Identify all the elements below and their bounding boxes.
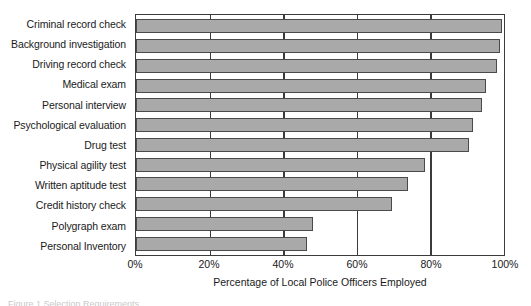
bar <box>136 197 392 211</box>
category-label: Personal Inventory <box>0 236 131 256</box>
category-label: Drug test <box>0 135 131 155</box>
x-axis-title: Percentage of Local Police Officers Empl… <box>135 276 505 288</box>
bar <box>136 59 497 73</box>
x-tick-label-100: 100% <box>492 258 519 270</box>
bar <box>136 158 425 172</box>
bar-row <box>136 214 504 234</box>
bar-series <box>136 15 504 255</box>
category-label: Polygraph exam <box>0 216 131 236</box>
x-tick-label-0: 0% <box>127 258 142 270</box>
bar-row <box>136 115 504 135</box>
bar-row <box>136 175 504 195</box>
category-axis-labels: Criminal record check Background investi… <box>0 14 131 256</box>
bar <box>136 217 313 231</box>
category-label: Background investigation <box>0 34 131 54</box>
bar <box>136 118 473 132</box>
bar <box>136 98 482 112</box>
x-tick-label-60: 60% <box>346 258 367 270</box>
bar-row <box>136 76 504 96</box>
bar <box>136 19 502 33</box>
bar-row <box>136 135 504 155</box>
category-label: Personal interview <box>0 95 131 115</box>
category-label: Medical exam <box>0 75 131 95</box>
bar <box>136 177 408 191</box>
category-label: Credit history check <box>0 196 131 216</box>
figure-caption: Figure 1 Selection Requirements <box>8 299 139 306</box>
x-axis-tick-labels: 0%20%40%60%80%100% <box>135 258 505 274</box>
bar <box>136 39 500 53</box>
bar <box>136 237 307 251</box>
plot-area <box>135 14 505 256</box>
category-label: Criminal record check <box>0 14 131 34</box>
x-tick-label-40: 40% <box>272 258 293 270</box>
category-label: Driving record check <box>0 54 131 74</box>
bar-row <box>136 155 504 175</box>
bar <box>136 138 469 152</box>
category-label: Written aptitude test <box>0 175 131 195</box>
bar-row <box>136 36 504 56</box>
bar <box>136 79 486 93</box>
category-label: Physical agility test <box>0 155 131 175</box>
bar-chart-figure: Criminal record check Background investi… <box>0 0 531 306</box>
x-tick-label-80: 80% <box>420 258 441 270</box>
bar-row <box>136 96 504 116</box>
bar-row <box>136 194 504 214</box>
bar-row <box>136 17 504 37</box>
bar-row <box>136 56 504 76</box>
bar-row <box>136 234 504 254</box>
x-tick-label-20: 20% <box>198 258 219 270</box>
category-label: Psychological evaluation <box>0 115 131 135</box>
